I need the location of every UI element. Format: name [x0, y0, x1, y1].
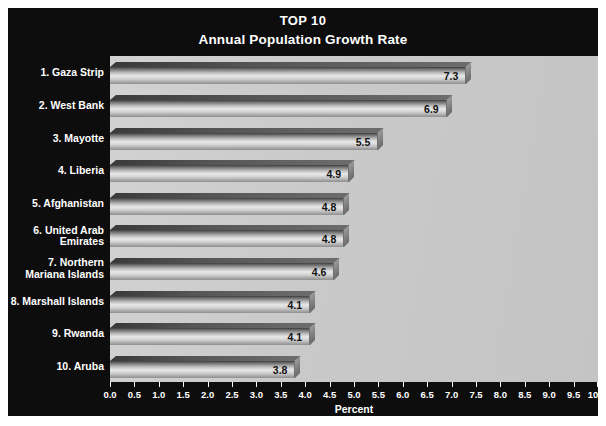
- chart-title-block: TOP 10 Annual Population Growth Rate: [8, 8, 598, 56]
- bar-value-label: 4.6: [286, 266, 326, 278]
- bar: 6.9: [110, 95, 447, 117]
- bar: 4.1: [110, 291, 310, 313]
- x-axis-tick: [452, 382, 453, 387]
- x-axis-tick: [256, 382, 257, 387]
- x-axis-tick: [354, 382, 355, 387]
- bar-side-face: [334, 258, 339, 280]
- x-axis-tick: [500, 382, 501, 387]
- category-axis-labels: 1. Gaza Strip2. West Bank3. Mayotte4. Li…: [8, 56, 108, 382]
- x-axis-tick: [305, 382, 306, 387]
- bar: 4.9: [110, 160, 349, 182]
- bar-side-face: [295, 356, 300, 378]
- bar: 4.8: [110, 193, 344, 215]
- x-axis-tick: [208, 382, 209, 387]
- bar-value-label: 6.9: [399, 103, 439, 115]
- x-axis-tick: [597, 382, 598, 387]
- bar-value-label: 4.8: [296, 201, 336, 213]
- page-title: TOP 10: [8, 13, 598, 28]
- bar: 3.8: [110, 356, 295, 378]
- bar-side-face: [310, 323, 315, 345]
- category-label: 3. Mayotte: [8, 133, 104, 145]
- bar: 7.3: [110, 62, 466, 84]
- category-label: 5. Afghanistan: [8, 198, 104, 210]
- x-axis-tick: [159, 382, 160, 387]
- bar-value-label: 5.5: [330, 136, 370, 148]
- bar: 4.1: [110, 323, 310, 345]
- bar-value-label: 4.9: [301, 168, 341, 180]
- bar-value-label: 4.8: [296, 233, 336, 245]
- chart-figure: TOP 10 Annual Population Growth Rate 1. …: [8, 8, 598, 416]
- bar: 4.8: [110, 225, 344, 247]
- x-axis: Percent 0.00.51.01.52.02.53.03.54.04.55.…: [110, 382, 598, 416]
- category-label: 2. West Bank: [8, 100, 104, 112]
- bar-side-face: [378, 128, 383, 150]
- bar-value-label: 3.8: [247, 364, 287, 376]
- x-axis-tick: [378, 382, 379, 387]
- chart-subtitle: Annual Population Growth Rate: [8, 32, 598, 47]
- category-label: 9. Rwanda: [8, 328, 104, 340]
- bar-side-face: [310, 291, 315, 313]
- x-axis-tick: [476, 382, 477, 387]
- x-axis-title: Percent: [110, 403, 598, 415]
- x-axis-tick: [403, 382, 404, 387]
- bar-side-face: [344, 225, 349, 247]
- bar-side-face: [344, 193, 349, 215]
- category-label: 10. Aruba: [8, 361, 104, 373]
- category-label: 7. Northern Mariana Islands: [8, 257, 104, 280]
- category-label: 6. United Arab Emirates: [8, 225, 104, 248]
- x-axis-tick: [134, 382, 135, 387]
- x-axis-tick: [549, 382, 550, 387]
- x-axis-tick: [330, 382, 331, 387]
- x-axis-tick: [427, 382, 428, 387]
- x-axis-tick: [110, 382, 111, 387]
- bar-front-face: [110, 67, 466, 84]
- category-label: 4. Liberia: [8, 165, 104, 177]
- bar-value-label: 4.1: [262, 299, 302, 311]
- bar-side-face: [466, 62, 471, 84]
- bar: 5.5: [110, 128, 378, 150]
- x-axis-tick: [183, 382, 184, 387]
- plot-area: 7.36.95.54.94.84.84.64.14.13.8: [110, 56, 598, 382]
- bar-value-label: 4.1: [262, 331, 302, 343]
- x-axis-tick: [525, 382, 526, 387]
- x-axis-tick: [574, 382, 575, 387]
- x-axis-tick: [232, 382, 233, 387]
- category-label: 8. Marshall Islands: [8, 296, 104, 308]
- category-label: 1. Gaza Strip: [8, 67, 104, 79]
- bar-value-label: 7.3: [418, 70, 458, 82]
- bar: 4.6: [110, 258, 334, 280]
- bar-side-face: [349, 160, 354, 182]
- bar-side-face: [447, 95, 452, 117]
- x-axis-tick: [281, 382, 282, 387]
- x-axis-tick-label: 10.0: [582, 389, 598, 400]
- bar-front-face: [110, 100, 447, 117]
